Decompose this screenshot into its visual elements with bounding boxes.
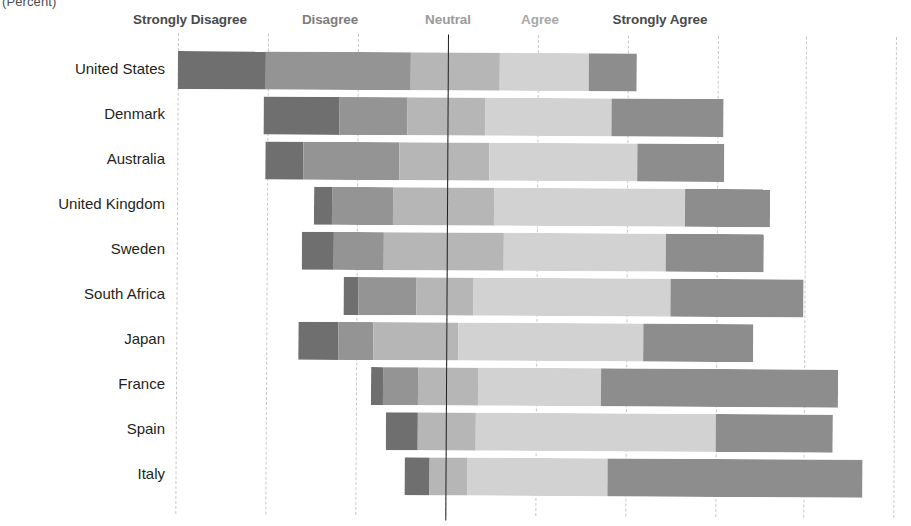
bar-segment-disagree[interactable] [334, 232, 384, 270]
bar-segment-strongly-agree[interactable] [607, 458, 862, 497]
axis-unit-caption: (Percent) [2, 0, 56, 9]
category-label-united-states: United States [0, 50, 165, 88]
bar-segment-strongly-disagree[interactable] [343, 277, 358, 315]
gridlines [0, 32, 911, 37]
bar-segment-disagree[interactable] [332, 187, 393, 225]
bar-segment-agree[interactable] [494, 188, 685, 227]
stacked-bar[interactable] [371, 367, 838, 408]
bar-segment-disagree[interactable] [266, 51, 411, 90]
bar-segment-strongly-agree[interactable] [716, 414, 833, 453]
bar-segment-neutral[interactable] [411, 52, 500, 90]
bar-segment-strongly-disagree[interactable] [314, 187, 332, 225]
legend-item-strongly-agree: Strongly Agree [613, 12, 708, 27]
stacked-bar[interactable] [265, 141, 724, 182]
category-label-south-africa: South Africa [0, 275, 165, 313]
category-label-denmark: Denmark [0, 95, 165, 133]
category-label-sweden: Sweden [0, 230, 165, 268]
category-label-spain: Spain [0, 410, 165, 448]
bar-segment-strongly-agree[interactable] [670, 279, 803, 318]
bar-segment-neutral[interactable] [399, 142, 489, 181]
bar-segment-strongly-disagree[interactable] [404, 457, 429, 495]
bar-segment-agree[interactable] [500, 53, 589, 91]
bar-segment-agree[interactable] [485, 98, 611, 137]
legend-item-neutral: Neutral [425, 12, 471, 27]
legend-item-agree: Agree [521, 12, 559, 27]
category-label-japan: Japan [0, 320, 165, 358]
legend-item-strongly-disagree: Strongly Disagree [133, 12, 247, 27]
bar-segment-neutral[interactable] [429, 457, 467, 495]
bar-segment-strongly-disagree[interactable] [371, 367, 383, 405]
bar-segment-strongly-agree[interactable] [601, 368, 838, 407]
bar-segment-neutral[interactable] [384, 232, 504, 271]
stacked-bar[interactable] [343, 277, 803, 318]
bar-segment-disagree[interactable] [339, 97, 407, 135]
category-label-france: France [0, 365, 165, 403]
bar-segment-agree[interactable] [476, 413, 716, 452]
bar-segment-agree[interactable] [458, 323, 643, 362]
bar-segment-neutral[interactable] [393, 187, 494, 226]
bar-segment-strongly-agree[interactable] [611, 98, 723, 137]
stacked-bar[interactable] [302, 232, 764, 273]
plot-skew-layer [0, 32, 911, 37]
stacked-bar[interactable] [178, 51, 637, 92]
stacked-bar[interactable] [314, 187, 770, 228]
bar-segment-neutral[interactable] [418, 367, 478, 405]
category-label-united-kingdom: United Kingdom [0, 185, 165, 223]
bar-segment-neutral[interactable] [416, 277, 473, 315]
bar-segment-strongly-disagree[interactable] [386, 412, 418, 450]
bar-segment-strongly-disagree[interactable] [263, 96, 339, 134]
category-label-australia: Australia [0, 140, 165, 178]
bar-segment-agree[interactable] [504, 233, 666, 272]
bar-segment-disagree[interactable] [338, 322, 373, 360]
bar-segment-strongly-agree[interactable] [637, 144, 724, 182]
bar-segment-agree[interactable] [467, 458, 607, 497]
legend-item-disagree: Disagree [302, 12, 358, 27]
bar-segment-disagree[interactable] [358, 277, 416, 315]
bar-segment-strongly-disagree[interactable] [302, 232, 334, 270]
bar-segment-strongly-agree[interactable] [589, 53, 637, 91]
bar-segment-agree[interactable] [478, 368, 601, 407]
stacked-bar[interactable] [404, 457, 862, 498]
stacked-bar[interactable] [298, 322, 753, 363]
bar-segment-strongly-agree[interactable] [685, 189, 770, 227]
category-label-italy: Italy [0, 455, 165, 493]
bar-segment-strongly-disagree[interactable] [298, 322, 338, 360]
stacked-bar[interactable] [386, 412, 833, 452]
bar-segment-strongly-disagree[interactable] [265, 141, 303, 179]
bar-segment-disagree[interactable] [383, 367, 418, 405]
bar-segment-strongly-agree[interactable] [666, 234, 764, 273]
bar-segment-agree[interactable] [489, 143, 637, 182]
bar-segment-strongly-agree[interactable] [643, 324, 753, 363]
bar-segment-agree[interactable] [473, 278, 670, 317]
bar-segment-disagree[interactable] [303, 142, 399, 181]
bar-segment-strongly-disagree[interactable] [178, 51, 266, 89]
bar-rows [0, 32, 911, 37]
chart-root: (Percent) Strongly DisagreeDisagreeNeutr… [0, 0, 911, 526]
stacked-bar[interactable] [263, 96, 723, 137]
chart-legend: Strongly DisagreeDisagreeNeutralAgreeStr… [0, 12, 911, 34]
